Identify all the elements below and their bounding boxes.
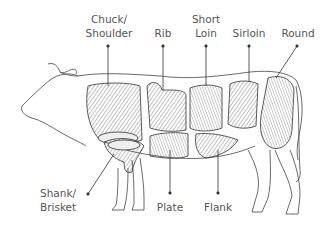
label-shank-brisket: Shank/ Brisket <box>40 186 86 214</box>
label-plate: Plate <box>154 200 186 214</box>
label-sirloin: Sirloin <box>231 26 267 40</box>
shank-face <box>108 140 140 150</box>
cut-round <box>260 77 294 149</box>
beef-cuts-diagram: Chuck/ Shoulder Rib Short Loin Sirloin R… <box>0 0 335 232</box>
label-short-loin: Short Loin <box>190 12 222 40</box>
cut-flank <box>195 133 238 158</box>
cut-short-loin <box>190 85 222 131</box>
cut-rib <box>147 83 186 132</box>
label-flank: Flank <box>200 200 236 214</box>
cut-sirloin <box>228 81 258 128</box>
cut-plate <box>150 133 188 159</box>
label-round: Round <box>280 26 316 40</box>
label-rib: Rib <box>150 26 176 40</box>
label-chuck-shoulder: Chuck/ Shoulder <box>80 12 138 40</box>
cuts <box>87 77 294 173</box>
